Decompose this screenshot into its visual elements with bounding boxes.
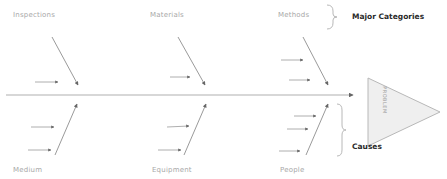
bone-inspections <box>52 37 78 85</box>
bone-methods <box>303 37 328 85</box>
category-label-medium: Medium <box>13 166 42 174</box>
problem-head <box>368 78 440 146</box>
brace-causes <box>337 104 346 156</box>
annotation-causes: Causes <box>352 142 382 151</box>
bone-people <box>306 104 328 155</box>
bone-equipment <box>184 104 206 155</box>
category-label-people: People <box>280 166 304 174</box>
brace-major-categories <box>327 5 337 29</box>
problem-label: PROBLEM <box>382 85 388 115</box>
cause-arrow <box>167 126 189 127</box>
category-label-materials: Materials <box>150 11 184 19</box>
bone-medium <box>55 104 77 155</box>
category-label-inspections: Inspections <box>13 11 55 19</box>
bone-materials <box>178 37 205 85</box>
category-label-methods: Methods <box>278 11 309 19</box>
category-label-equipment: Equipment <box>152 166 192 174</box>
annotation-major-categories: Major Categories <box>352 12 424 21</box>
fishbone-diagram <box>0 0 447 179</box>
